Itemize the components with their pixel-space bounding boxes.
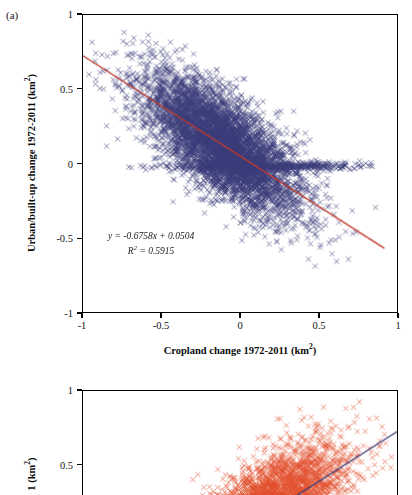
y-tick-label: -1 [64,308,73,319]
x-tick-mark [81,313,82,318]
y-tick-label: 0.5 [60,459,73,470]
y-tick-mark [77,389,82,390]
y-tick-label: 0.5 [60,83,73,94]
x-tick-label: 0 [237,320,242,331]
figure-root: (a) -1-0.500.51 -1-0.500.51 Cropland cha… [0,0,412,495]
y-tick-label: 1 [68,9,73,20]
y-tick-mark [77,88,82,89]
y-tick-label: -0.5 [56,233,73,244]
x-tick-label: 0.5 [312,320,325,331]
plot-area-a [82,14,398,313]
x-tick-label: -1 [78,320,87,331]
regression-r2-a: R2 = 0.5915 [108,242,194,257]
y-tick-mark [77,163,82,164]
y-tick-mark [77,238,82,239]
x-tick-mark [397,313,398,318]
y-axis-title-a: Urban/built-up change 1972-2011 (km2) [23,74,37,252]
x-tick-label: 1 [395,320,400,331]
panel-a: (a) -1-0.500.51 -1-0.500.51 Cropland cha… [0,0,412,370]
regression-annotation-a: y = -0.6758x + 0.0504 R2 = 0.5915 [108,230,194,257]
x-tick-mark [318,313,319,318]
x-tick-mark [239,313,240,318]
y-axis-title-b: 1 (km2) [23,457,37,490]
scatter-canvas-a [83,15,397,312]
y-tick-label: 1 [68,385,73,396]
x-tick-mark [160,313,161,318]
panel-b: (b) 10.5 [0,372,412,495]
y-tick-mark [77,13,82,14]
y-tick-label: 0 [68,158,73,169]
x-axis-title-a: Cropland change 1972-2011 (km2) [164,342,317,356]
scatter-canvas-b [83,391,397,495]
plot-area-b [82,390,398,495]
regression-equation-a: y = -0.6758x + 0.0504 [108,230,194,242]
y-tick-mark [77,464,82,465]
x-tick-label: -0.5 [153,320,170,331]
panel-a-label: (a) [6,9,18,21]
